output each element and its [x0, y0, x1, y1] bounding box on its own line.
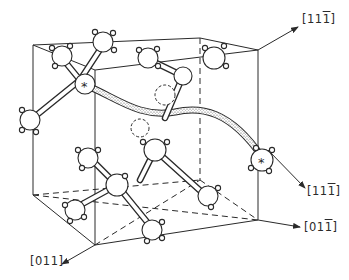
index-h: 0: [35, 254, 43, 268]
arrow-bottom-left: [62, 245, 95, 264]
label-bottom-left: [011]: [30, 256, 63, 268]
index-k: 1: [317, 220, 325, 234]
vacancy-circle: [131, 119, 149, 137]
bracket-close: ]: [335, 184, 340, 198]
label-top-right: [111]: [302, 14, 335, 26]
bracket-close: ]: [58, 254, 63, 268]
bracket-close: ]: [330, 12, 335, 26]
atom: [174, 67, 192, 85]
atoms: [19, 29, 228, 243]
label-bottom-right: [011]: [304, 222, 337, 234]
atom: [202, 43, 228, 69]
atom: [198, 185, 221, 209]
atom: [62, 200, 86, 224]
vacancy-circle: [155, 85, 175, 105]
arrow-top-right: [258, 27, 298, 50]
star-marker-left: *: [81, 79, 88, 94]
atom: [92, 29, 116, 52]
index-k: 1: [320, 184, 328, 198]
index-h: 1: [312, 184, 320, 198]
bracket-close: ]: [332, 220, 337, 234]
diagram-canvas: * *: [0, 0, 349, 280]
index-h: 1: [307, 12, 315, 26]
arrow-bottom-right: [258, 220, 300, 227]
index-h: 0: [309, 220, 317, 234]
label-mid-right: [111]: [307, 186, 340, 198]
index-k: 1: [315, 12, 323, 26]
index-k: 1: [43, 254, 51, 268]
atom: [142, 219, 165, 243]
atom: [122, 173, 127, 178]
atom: [136, 46, 160, 68]
arrow-mid-right: [268, 150, 305, 188]
lattice-diagram: * * [111] [111] [011] [011]: [0, 0, 349, 280]
star-marker-right: *: [258, 155, 265, 170]
